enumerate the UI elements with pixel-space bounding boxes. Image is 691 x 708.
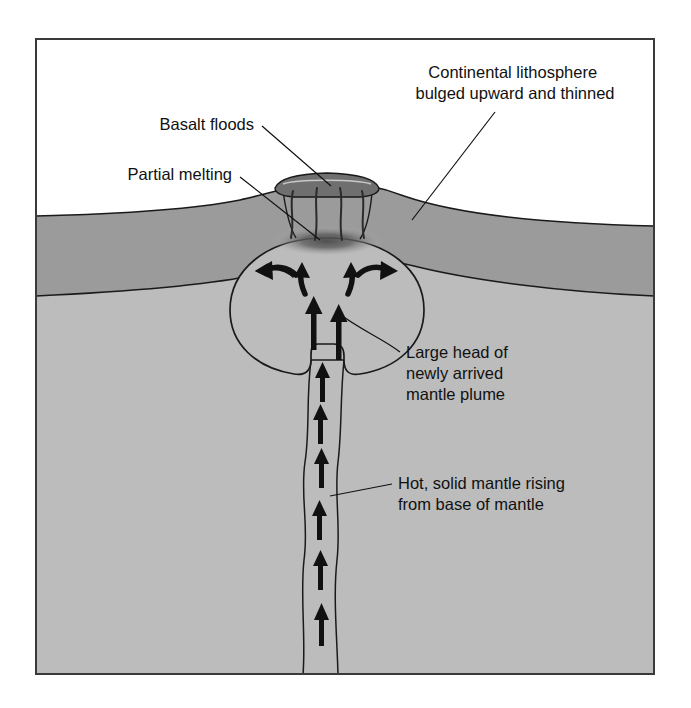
feeder-dike-4 (362, 191, 364, 238)
feeder-dike-1 (291, 191, 293, 238)
label-continental-lithosphere-line-1: Continental lithosphere (428, 63, 597, 81)
label-partial-melting-line-1: Partial melting (127, 165, 232, 183)
partial-melt-zone (271, 226, 383, 256)
label-basalt-floods-line-1: Basalt floods (160, 115, 254, 133)
label-plume-head: Large head of newly arrived mantle plume (406, 343, 512, 403)
figure-root: Continental lithosphere bulged upward an… (0, 0, 691, 708)
label-plume-head-line-2: newly arrived (406, 364, 503, 382)
label-plume-head-line-1: Large head of (406, 343, 508, 361)
feeder-dike-3 (340, 188, 342, 240)
diagram-canvas (36, 39, 654, 675)
label-continental-lithosphere-line-2: bulged upward and thinned (415, 84, 614, 102)
mantle-plume-diagram: Continental lithosphere bulged upward an… (0, 0, 691, 708)
label-basalt-floods: Basalt floods (160, 115, 254, 133)
label-hot-solid-mantle-line-1: Hot, solid mantle rising (398, 474, 565, 492)
label-plume-head-line-3: mantle plume (406, 385, 505, 403)
label-hot-solid-mantle-line-2: from base of mantle (398, 495, 544, 513)
label-partial-melting: Partial melting (127, 165, 232, 183)
